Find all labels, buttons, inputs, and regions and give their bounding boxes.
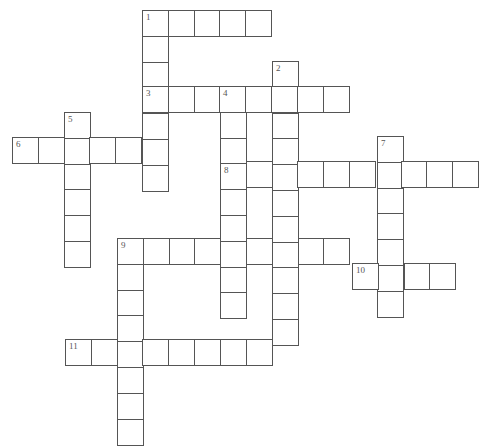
- crossword-cell[interactable]: [142, 113, 169, 140]
- clue-number: 1: [146, 13, 151, 22]
- crossword-cell[interactable]: 8: [220, 163, 247, 190]
- crossword-cell[interactable]: [245, 86, 272, 113]
- crossword-cell[interactable]: 10: [352, 263, 379, 290]
- crossword-cell[interactable]: 11: [65, 339, 92, 366]
- clue-number: 4: [223, 89, 228, 98]
- crossword-cell[interactable]: [194, 10, 221, 37]
- crossword-cell[interactable]: [246, 238, 273, 265]
- crossword-cell[interactable]: [64, 164, 91, 191]
- crossword-cell[interactable]: [220, 241, 247, 268]
- crossword-cell[interactable]: [64, 189, 91, 216]
- crossword-cell[interactable]: [168, 86, 195, 113]
- clue-number: 10: [356, 266, 365, 275]
- clue-number: 7: [381, 139, 386, 148]
- crossword-cell[interactable]: 3: [142, 86, 169, 113]
- crossword-cell[interactable]: [117, 367, 144, 394]
- crossword-cell[interactable]: [245, 10, 272, 37]
- crossword-cell[interactable]: [377, 265, 404, 292]
- crossword-cell[interactable]: [168, 339, 195, 366]
- clue-number: 2: [276, 64, 281, 73]
- clue-number: 3: [146, 89, 151, 98]
- crossword-cell[interactable]: [272, 113, 299, 140]
- crossword-cell[interactable]: [298, 238, 325, 265]
- crossword-cell[interactable]: [219, 10, 246, 37]
- crossword-cell[interactable]: [377, 162, 404, 189]
- crossword-cell[interactable]: [64, 138, 91, 165]
- crossword-cell[interactable]: [89, 137, 116, 164]
- crossword-cell[interactable]: [272, 319, 299, 346]
- crossword-grid: 1234856791011: [0, 0, 489, 448]
- crossword-cell[interactable]: [272, 216, 299, 243]
- crossword-cell[interactable]: [143, 238, 170, 265]
- crossword-cell[interactable]: [220, 339, 247, 366]
- crossword-cell[interactable]: [194, 86, 221, 113]
- crossword-cell[interactable]: [64, 241, 91, 268]
- crossword-cell[interactable]: [323, 238, 350, 265]
- crossword-cell[interactable]: [323, 86, 350, 113]
- crossword-cell[interactable]: [38, 137, 65, 164]
- crossword-cell[interactable]: [272, 293, 299, 320]
- crossword-cell[interactable]: 4: [219, 86, 246, 113]
- crossword-cell[interactable]: [272, 164, 299, 191]
- crossword-cell[interactable]: [297, 86, 324, 113]
- crossword-cell[interactable]: [142, 36, 169, 63]
- crossword-cell[interactable]: [169, 238, 196, 265]
- crossword-cell[interactable]: 6: [12, 137, 39, 164]
- crossword-cell[interactable]: [220, 112, 247, 139]
- crossword-cell[interactable]: [297, 161, 324, 188]
- clue-number: 6: [16, 140, 21, 149]
- crossword-cell[interactable]: [117, 341, 144, 368]
- crossword-cell[interactable]: [323, 161, 350, 188]
- crossword-cell[interactable]: [272, 242, 299, 269]
- crossword-cell[interactable]: [142, 165, 169, 192]
- crossword-cell[interactable]: [220, 267, 247, 294]
- crossword-cell[interactable]: [220, 189, 247, 216]
- crossword-cell[interactable]: [117, 264, 144, 291]
- crossword-cell[interactable]: [452, 161, 479, 188]
- crossword-cell[interactable]: [246, 161, 273, 188]
- crossword-cell[interactable]: [220, 292, 247, 319]
- crossword-cell[interactable]: 9: [117, 238, 144, 265]
- crossword-cell[interactable]: [377, 213, 404, 240]
- crossword-cell[interactable]: [117, 290, 144, 317]
- crossword-cell[interactable]: 7: [377, 136, 404, 163]
- crossword-cell[interactable]: [91, 339, 118, 366]
- crossword-cell[interactable]: [377, 239, 404, 266]
- crossword-cell[interactable]: [194, 238, 221, 265]
- crossword-cell[interactable]: [115, 137, 142, 164]
- clue-number: 9: [121, 241, 126, 250]
- crossword-cell[interactable]: [377, 188, 404, 215]
- clue-number: 5: [68, 115, 73, 124]
- crossword-cell[interactable]: [272, 138, 299, 165]
- crossword-cell[interactable]: [194, 339, 221, 366]
- crossword-cell[interactable]: [272, 190, 299, 217]
- clue-number: 8: [224, 166, 229, 175]
- crossword-cell[interactable]: [404, 263, 431, 290]
- crossword-cell[interactable]: [246, 339, 273, 366]
- crossword-cell[interactable]: [220, 138, 247, 165]
- clue-number: 11: [69, 342, 78, 351]
- crossword-cell[interactable]: [64, 215, 91, 242]
- crossword-cell[interactable]: [117, 419, 144, 446]
- crossword-cell[interactable]: 5: [64, 112, 91, 139]
- crossword-cell[interactable]: [271, 86, 298, 113]
- crossword-cell[interactable]: [168, 10, 195, 37]
- crossword-cell[interactable]: [377, 291, 404, 318]
- crossword-cell[interactable]: [220, 215, 247, 242]
- crossword-cell[interactable]: [142, 339, 169, 366]
- crossword-cell[interactable]: 2: [272, 61, 299, 88]
- crossword-cell[interactable]: [429, 263, 456, 290]
- crossword-cell[interactable]: [117, 315, 144, 342]
- crossword-cell[interactable]: [349, 161, 376, 188]
- crossword-cell[interactable]: [142, 139, 169, 166]
- crossword-cell[interactable]: [426, 161, 453, 188]
- crossword-cell[interactable]: [401, 161, 428, 188]
- crossword-cell[interactable]: [142, 62, 169, 89]
- crossword-cell[interactable]: 1: [142, 10, 169, 37]
- crossword-cell[interactable]: [117, 393, 144, 420]
- crossword-cell[interactable]: [272, 267, 299, 294]
